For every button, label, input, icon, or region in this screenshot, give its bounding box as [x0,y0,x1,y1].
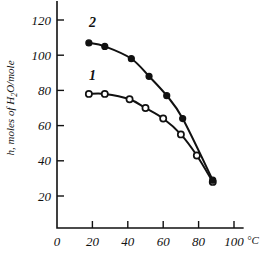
data-point-2-4 [164,93,170,99]
x-axis-tick-label: 60 [157,234,171,249]
chart-canvas: 20406080100120020406080100°Ch, moles of … [0,0,273,264]
chart-axes [57,2,243,228]
data-point-1-0 [86,91,92,97]
data-point-2-2 [128,56,134,62]
data-point-1-3 [142,105,148,111]
series-label-2: 2 [88,15,96,30]
data-point-2-3 [146,73,152,79]
data-point-2-6 [210,177,216,183]
x-axis-tick-label: 0 [54,234,61,249]
x-axis-tick-label: 40 [121,234,135,249]
data-point-2-0 [86,40,92,46]
series-curve-1 [89,94,213,182]
data-point-1-5 [178,131,184,137]
data-point-1-2 [126,96,132,102]
y-axis-tick-label: 120 [32,13,52,28]
y-axis-tick-label: 80 [38,83,52,98]
data-point-2-5 [180,116,186,122]
data-point-1-4 [160,115,166,121]
y-axis-tick-label: 60 [38,118,52,133]
x-axis-tick-label: 20 [86,234,100,249]
figure-container: 20406080100120020406080100°Ch, moles of … [0,0,273,264]
series-label-1: 1 [89,68,96,83]
x-axis-tick-label: 100 [224,234,244,249]
y-axis-tick-label: 100 [32,48,52,63]
data-point-2-1 [102,43,108,49]
data-point-1-1 [102,91,108,97]
y-axis-tick-label: 40 [38,153,52,168]
x-axis-unit-label: °C [247,234,259,246]
y-axis-tick-label: 20 [38,189,52,204]
y-axis-title: h, moles of H2O/mole [4,60,19,155]
x-axis-tick-label: 80 [192,234,206,249]
